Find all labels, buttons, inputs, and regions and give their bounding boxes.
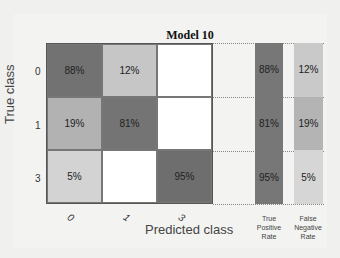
tpr-cell: 81% xyxy=(255,97,283,151)
fnr-label-line: Negative xyxy=(288,223,328,232)
fnr-label-line: Rate xyxy=(288,232,328,241)
y-tick-label: 1 xyxy=(35,120,41,131)
matrix-cell: 5% xyxy=(47,150,102,203)
fnr-cell: 19% xyxy=(294,97,323,151)
tpr-label-line: Positive xyxy=(249,223,289,232)
y-tick-label: 3 xyxy=(35,173,41,184)
fnr-label-line: False xyxy=(288,214,328,223)
x-axis-title: Predicted class xyxy=(145,222,233,237)
row-divider xyxy=(213,204,324,205)
matrix-cell: 95% xyxy=(157,150,212,203)
tpr-cell: 88% xyxy=(255,43,283,97)
matrix-cell xyxy=(102,150,157,203)
matrix-cell xyxy=(157,97,212,150)
confusion-matrix: 88% 12% 19% 81% 5% 95% xyxy=(46,43,213,204)
true-positive-rate-column: 88% 81% 95% xyxy=(255,43,283,204)
matrix-cell: 12% xyxy=(102,44,157,97)
matrix-cell xyxy=(157,44,212,97)
matrix-cell: 88% xyxy=(47,44,102,97)
tpr-label-line: True xyxy=(249,214,289,223)
tpr-label-line: Rate xyxy=(249,232,289,241)
tpr-cell: 95% xyxy=(255,150,283,204)
matrix-cell: 81% xyxy=(102,97,157,150)
fnr-cell: 5% xyxy=(294,150,323,204)
fnr-cell: 12% xyxy=(294,43,323,97)
fnr-label: False Negative Rate xyxy=(288,214,328,241)
chart-title: Model 10 xyxy=(150,28,230,43)
false-negative-rate-column: 12% 19% 5% xyxy=(294,43,323,204)
matrix-cell: 19% xyxy=(47,97,102,150)
y-tick-label: 0 xyxy=(35,66,41,77)
y-axis-title: True class xyxy=(2,65,17,124)
tpr-label: True Positive Rate xyxy=(249,214,289,241)
